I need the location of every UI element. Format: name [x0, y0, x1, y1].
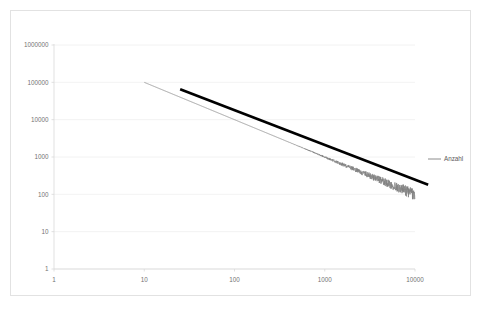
y-tick-label: 10 [41, 228, 49, 235]
y-tick-label: 1000 [34, 153, 49, 160]
axes-group [54, 44, 415, 269]
y-tick-labels-group: 1101001000100001000001000000 [24, 41, 49, 272]
x-tick-label: 100 [229, 276, 240, 283]
x-tick-label: 10000 [406, 276, 424, 283]
x-tick-label: 1000 [318, 276, 333, 283]
trendline [180, 89, 428, 184]
y-tick-label: 1 [45, 265, 49, 272]
data-series-group [144, 82, 428, 199]
y-tick-label: 100 [38, 191, 49, 198]
y-tick-label: 10000 [31, 116, 49, 123]
chart-root: 1101001000100001000001000000 11010010001… [0, 0, 483, 310]
x-tick-labels-group: 110100100010000 [52, 276, 424, 283]
chart-plot-svg: 1101001000100001000001000000 11010010001… [0, 0, 483, 310]
series-line-anzahl [144, 82, 415, 199]
x-tick-label: 10 [141, 276, 149, 283]
gridlines-group [54, 45, 415, 269]
legend-label-anzahl[interactable]: Anzahl [444, 155, 463, 162]
legend-group[interactable]: Anzahl [428, 155, 463, 162]
y-tick-label: 1000000 [24, 41, 49, 48]
x-tick-label: 1 [52, 276, 56, 283]
y-tick-label: 100000 [27, 79, 49, 86]
